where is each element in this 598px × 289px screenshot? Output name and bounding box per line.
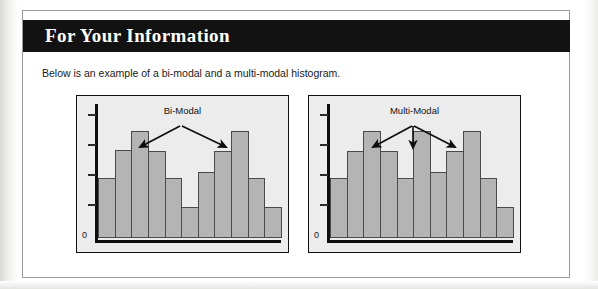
scan-edge-bottom (0, 281, 598, 289)
histogram-bar (496, 207, 514, 238)
histogram-bar (480, 178, 498, 238)
page-root: For Your Information Below is an example… (0, 0, 598, 289)
bars-multimodal (330, 108, 513, 238)
bars-bimodal (98, 108, 281, 238)
histogram-bar (231, 131, 249, 238)
histogram-bar (148, 151, 166, 238)
callout-header-bar: For Your Information (23, 20, 570, 52)
histogram-bar (198, 172, 216, 238)
histogram-bar (248, 178, 266, 238)
callout-body-text: Below is an example of a bi-modal and a … (42, 67, 340, 79)
scan-edge-left (0, 0, 18, 289)
histogram-bar (181, 207, 199, 238)
histogram-bar (214, 151, 232, 238)
scan-edge-right (584, 0, 598, 289)
y-axis-tick (88, 204, 96, 206)
y-axis-tick (88, 144, 96, 146)
plot-area-multimodal: Multi-Modal 0 (309, 96, 520, 252)
plot-area-bimodal: Bi-Modal 0 (77, 96, 288, 252)
y-axis-zero-label-multimodal: 0 (314, 230, 319, 240)
histogram-bar (363, 131, 381, 238)
for-your-information-callout: For Your Information Below is an example… (22, 10, 570, 278)
callout-header-title: For Your Information (45, 25, 230, 47)
histogram-bar (98, 178, 116, 238)
chart-panel-bimodal: Bi-Modal 0 (76, 95, 289, 253)
histogram-bar (165, 178, 183, 238)
histogram-bar (446, 151, 464, 238)
y-axis-tick (88, 114, 96, 116)
histogram-bar (430, 172, 448, 238)
histogram-bar (264, 207, 282, 238)
histogram-bar (413, 131, 431, 238)
y-axis-tick (320, 144, 328, 146)
x-axis-bimodal (95, 240, 281, 243)
y-axis-tick (88, 174, 96, 176)
y-axis-zero-label-bimodal: 0 (82, 230, 87, 240)
histogram-bar (330, 178, 348, 238)
histogram-bar (347, 151, 365, 238)
chart-panel-multimodal: Multi-Modal 0 (308, 95, 521, 253)
y-axis-tick (320, 204, 328, 206)
histogram-charts-row: Bi-Modal 0 (76, 95, 532, 255)
histogram-bar (115, 150, 133, 238)
y-axis-tick (320, 114, 328, 116)
y-axis-tick (320, 174, 328, 176)
histogram-bar (463, 131, 481, 238)
histogram-bar (397, 178, 415, 238)
x-axis-multimodal (327, 240, 513, 243)
histogram-bar (380, 151, 398, 238)
histogram-bar (131, 131, 149, 238)
